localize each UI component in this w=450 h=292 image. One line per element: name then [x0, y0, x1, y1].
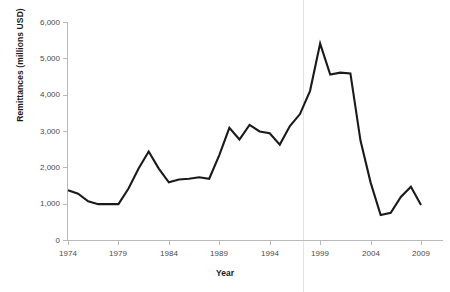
plot-area [0, 0, 450, 292]
data-series-remittances [68, 44, 421, 216]
chart-figure: Remittances (millions USD) Year 6,000 5,… [0, 0, 450, 292]
x-tick-marks [68, 241, 421, 246]
y-tick-marks [63, 23, 68, 241]
